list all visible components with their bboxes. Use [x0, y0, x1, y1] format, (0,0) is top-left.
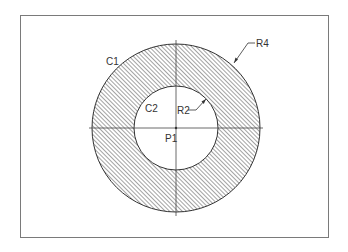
cad-drawing: C1 C2 R4 R2 P1 — [0, 0, 348, 252]
label-r2: R2 — [177, 105, 190, 116]
label-c1: C1 — [106, 56, 119, 67]
label-c2: C2 — [145, 103, 158, 114]
center-point-p1-icon[interactable] — [175, 127, 177, 129]
label-p1: P1 — [165, 133, 178, 144]
label-r4: R4 — [256, 38, 269, 49]
